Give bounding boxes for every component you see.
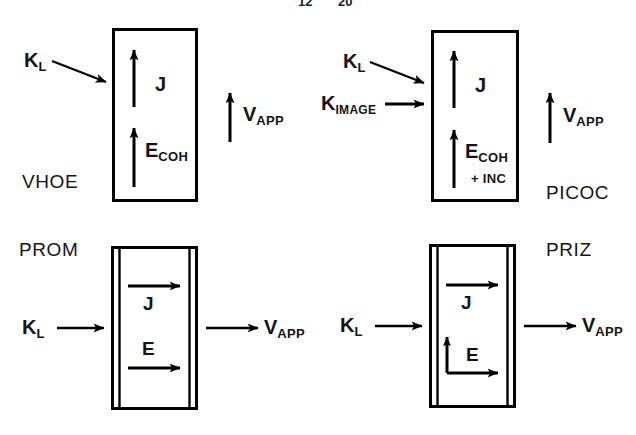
picoc-panel-graphics [370, 32, 550, 201]
picoc-ecoh-subscript: COH [478, 150, 508, 165]
picoc-device-name: PICOC [546, 183, 609, 202]
picoc-ecoh-label: ECOH [465, 141, 508, 161]
picoc-ecoh-symbol: E [465, 140, 478, 162]
diagram-vector-layer [0, 0, 636, 435]
prom-vapp-label: VAPP [264, 317, 305, 337]
priz-j-symbol: J [461, 292, 472, 313]
vhoe-device-box [114, 30, 197, 201]
vhoe-vapp-subscript: APP [256, 113, 284, 128]
picoc-kl-label: KL [343, 51, 366, 71]
picoc-kl-arrow [370, 62, 424, 83]
picoc-ecoh-extra-label: + INC [471, 172, 506, 185]
prom-panel-graphics [57, 248, 258, 409]
prom-e-symbol: E [142, 338, 155, 359]
prom-kl-symbol: K [22, 316, 36, 338]
vhoe-ecoh-subscript: COH [158, 149, 188, 164]
priz-device-box [431, 246, 515, 407]
vhoe-ecoh-symbol: E [145, 139, 158, 161]
priz-panel-graphics [375, 246, 576, 407]
picoc-vapp-label: VAPP [563, 105, 604, 125]
clipped-header-digit-right: 20 [338, 0, 352, 8]
vhoe-device-name: VHOE [22, 172, 78, 191]
picoc-vapp-symbol: V [563, 104, 576, 126]
picoc-kl-subscript: L [357, 60, 365, 75]
vhoe-kl-arrow [52, 61, 106, 82]
vhoe-vapp-label: VAPP [243, 104, 284, 124]
vhoe-kl-symbol: K [24, 49, 38, 71]
vhoe-kl-label: KL [24, 50, 47, 70]
vhoe-ecoh-label: ECOH [145, 140, 188, 160]
picoc-kimage-subscript: IMAGE [335, 103, 376, 117]
picoc-j-symbol: J [475, 74, 486, 96]
priz-vapp-label: VAPP [582, 315, 623, 335]
prom-device-name: PROM [19, 240, 78, 259]
priz-j-label: J [461, 293, 472, 312]
prom-j-label: J [143, 294, 154, 313]
priz-device-name: PRIZ [546, 240, 592, 259]
prom-vapp-symbol: V [264, 316, 277, 338]
vhoe-j-label: J [155, 74, 166, 94]
prom-e-label: E [142, 339, 155, 358]
vhoe-kl-subscript: L [38, 59, 46, 74]
picoc-kimage-label: KIMAGE [321, 93, 376, 113]
prom-kl-label: KL [22, 317, 45, 337]
picoc-vapp-subscript: APP [576, 114, 604, 129]
priz-kl-symbol: K [340, 314, 354, 336]
priz-e-symbol: E [466, 344, 479, 365]
clipped-header-digit-left: 12 [298, 0, 312, 8]
priz-e-label: E [466, 345, 479, 364]
vhoe-vapp-symbol: V [243, 103, 256, 125]
prom-j-symbol: J [143, 293, 154, 314]
prom-vapp-subscript: APP [277, 326, 305, 341]
vhoe-j-symbol: J [155, 73, 166, 95]
picoc-j-label: J [475, 75, 486, 95]
priz-vapp-subscript: APP [595, 324, 623, 339]
priz-kl-label: KL [340, 315, 363, 335]
picoc-kimage-symbol: K [321, 92, 335, 114]
priz-kl-subscript: L [354, 324, 362, 339]
vhoe-panel-graphics [52, 30, 230, 201]
priz-vapp-symbol: V [582, 314, 595, 336]
prom-device-box [113, 248, 197, 409]
picoc-kl-symbol: K [343, 50, 357, 72]
prom-kl-subscript: L [36, 326, 44, 341]
figure-canvas: 12 20 KL J ECOH VAPP VHOE KL KIMAGE J EC… [0, 0, 636, 435]
